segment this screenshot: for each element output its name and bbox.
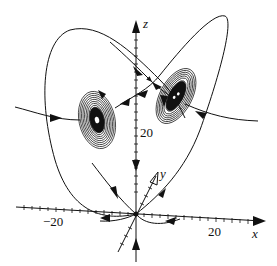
arrow-icon bbox=[132, 160, 140, 171]
arrow-icon bbox=[110, 186, 118, 199]
x-axis-label: x bbox=[251, 226, 258, 241]
z-axis-label: z bbox=[142, 16, 148, 31]
incoming-trajectory-left bbox=[15, 107, 80, 120]
y-axis-arrowhead-icon bbox=[150, 172, 158, 185]
arrow-icon bbox=[132, 238, 140, 250]
x-neg-tick-label: −20 bbox=[43, 214, 63, 229]
y-axis-label: y bbox=[158, 166, 166, 181]
z-axis-arrowhead-icon bbox=[132, 20, 140, 33]
incoming-trajectory-right bbox=[185, 104, 258, 121]
x-tick-label: 20 bbox=[208, 224, 221, 239]
phase-portrait-figure: z 20 −20 20 x bbox=[0, 0, 277, 266]
phase-portrait-svg: z 20 −20 20 x bbox=[0, 0, 277, 266]
right-spiral-focus bbox=[148, 62, 204, 130]
arrow-icon bbox=[120, 98, 130, 106]
origin-saddle-point bbox=[134, 212, 139, 217]
incoming-trajectory-upper bbox=[110, 42, 170, 96]
x-axis-arrowhead-icon bbox=[253, 216, 266, 226]
left-spiral-focus bbox=[73, 88, 120, 152]
z-axis: z 20 bbox=[132, 16, 153, 262]
arrow-icon bbox=[165, 217, 176, 225]
arrow-icon bbox=[50, 114, 62, 122]
z-tick-label: 20 bbox=[140, 125, 153, 140]
